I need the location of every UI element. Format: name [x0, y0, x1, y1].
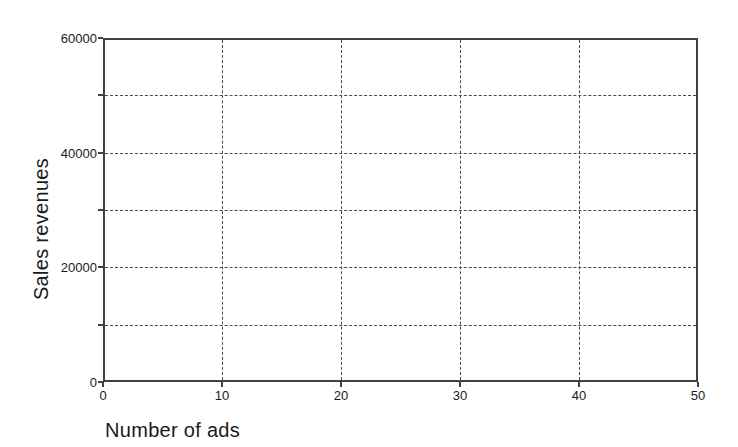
- y-axis-tick: [98, 37, 103, 39]
- x-axis-tick: [697, 382, 699, 387]
- y-axis-title: Sales revenues: [28, 119, 54, 339]
- x-tick-label: 40: [572, 389, 586, 403]
- x-tick-label: 10: [215, 389, 229, 403]
- x-axis-tick: [459, 382, 461, 387]
- y-gridline: [105, 153, 696, 154]
- x-tick-label: 20: [334, 389, 348, 403]
- x-axis-tick: [340, 382, 342, 387]
- y-gridline: [105, 325, 696, 326]
- y-gridline: [105, 210, 696, 211]
- y-tick-label: 60000: [35, 32, 97, 45]
- x-tick-label: 30: [453, 389, 467, 403]
- y-axis-tick: [98, 324, 103, 326]
- scatter-chart-figure: 010203040500200004000060000 Number of ad…: [0, 0, 738, 447]
- x-axis-tick: [221, 382, 223, 387]
- y-axis-tick: [98, 209, 103, 211]
- x-axis-title: Number of ads: [105, 418, 240, 442]
- y-axis-tick: [98, 152, 103, 154]
- y-tick-label: 0: [35, 376, 97, 389]
- y-gridline: [105, 267, 696, 268]
- y-axis-tick: [98, 381, 103, 383]
- plot-area: [103, 38, 698, 382]
- y-axis-tick: [98, 94, 103, 96]
- x-tick-label: 50: [691, 389, 705, 403]
- y-axis-tick: [98, 266, 103, 268]
- x-tick-label: 0: [99, 389, 106, 403]
- y-gridline: [105, 95, 696, 96]
- x-axis-tick: [578, 382, 580, 387]
